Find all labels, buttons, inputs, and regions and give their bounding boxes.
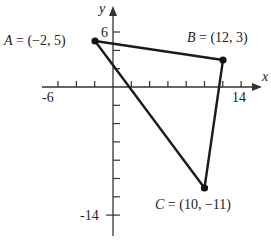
x-tick-label-neg6: -6 xyxy=(42,91,54,105)
x-axis-label: x xyxy=(262,70,268,84)
y-axis-label: y xyxy=(99,2,105,16)
point-a xyxy=(91,37,98,44)
point-b xyxy=(219,56,226,63)
point-b-label: B = (12, 3) xyxy=(187,31,248,45)
y-tick-label-neg14: -14 xyxy=(80,209,99,223)
y-axis-arrow-icon xyxy=(109,6,117,16)
y-tick-label-6: 6 xyxy=(101,26,108,40)
triangle-abc xyxy=(95,41,223,188)
coordinate-plane-diagram: y x -6 14 6 -14 A = (−2, 5) B = (12, 3) … xyxy=(0,0,271,244)
x-axis-arrow-icon xyxy=(252,83,262,91)
point-c-label: C = (10, −11) xyxy=(155,198,231,212)
x-ticks xyxy=(58,81,241,87)
point-a-label: A = (−2, 5) xyxy=(4,34,66,48)
x-tick-label-14: 14 xyxy=(232,91,246,105)
point-c xyxy=(201,184,208,191)
